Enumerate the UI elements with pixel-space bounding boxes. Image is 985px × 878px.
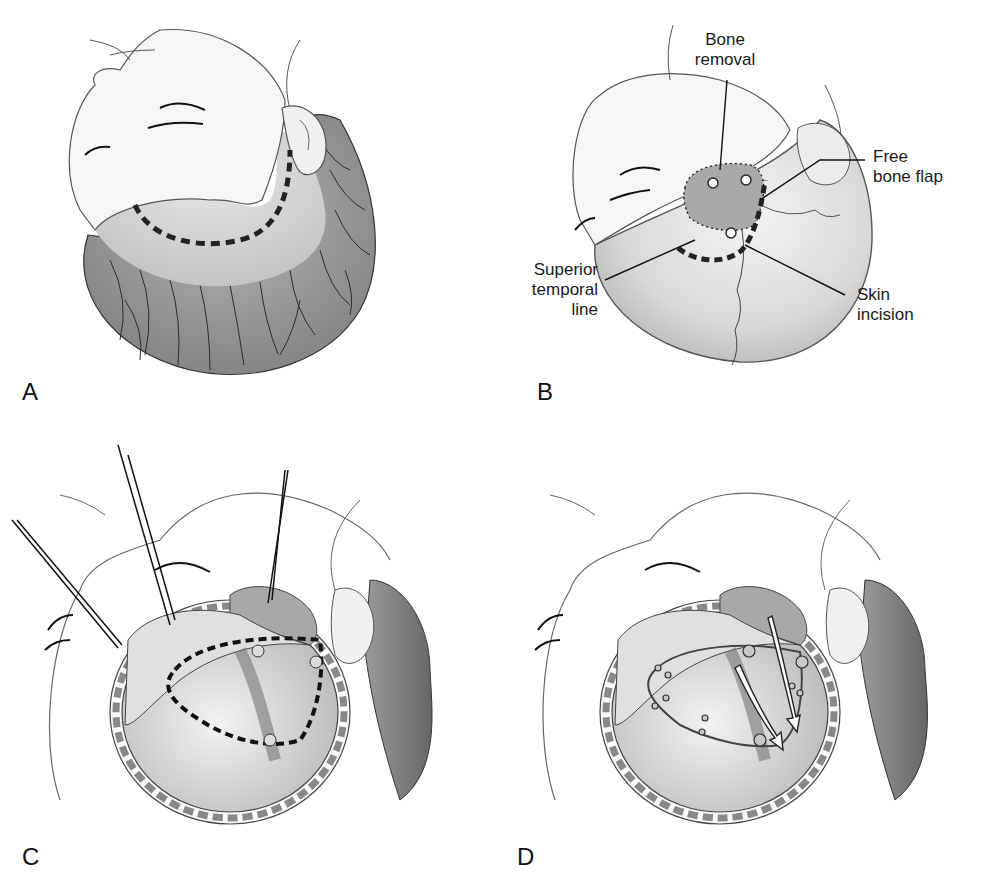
bone-removal-region — [684, 164, 764, 231]
panel-letter-d: D — [517, 845, 534, 869]
eyelash — [48, 615, 73, 630]
head-incision-illustration — [0, 0, 480, 420]
retractor-hook — [12, 520, 118, 648]
panel-letter-b: B — [537, 380, 553, 404]
panel-b: Bone removal Free bone flap Superior tem… — [480, 0, 985, 420]
panel-letter-c: C — [22, 845, 39, 869]
suture-knot — [699, 729, 705, 735]
figure-caption-truncated: · · · — [0, 868, 985, 878]
face-outline — [69, 30, 285, 230]
callout-bone-removal: Bone removal — [680, 30, 770, 70]
burr-hole — [743, 645, 755, 657]
burr-hole — [754, 734, 766, 746]
callout-free-bone-flap: Free bone flap — [873, 147, 983, 187]
callout-skin-incision: Skin incision — [857, 285, 957, 325]
burr-hole — [796, 656, 808, 668]
hair — [365, 580, 432, 800]
retractor-hook — [118, 445, 170, 625]
burr-hole — [264, 734, 276, 746]
eyelash — [535, 640, 560, 650]
panel-c: C — [0, 440, 480, 860]
eyelash — [645, 563, 700, 572]
burr-hole — [741, 175, 751, 185]
burr-hole — [252, 645, 264, 657]
hair — [860, 580, 927, 800]
callout-superior-temporal-line: Superior temporal line — [500, 260, 598, 320]
eyelash — [538, 615, 563, 630]
scalp-retracted-dura-illustration — [0, 440, 480, 860]
burr-hole — [310, 656, 322, 668]
eyelash — [155, 563, 210, 572]
dura-tacked-rotation-illustration — [480, 440, 985, 860]
burr-hole — [708, 178, 718, 188]
panel-letter-a: A — [22, 380, 38, 404]
panel-d: D — [480, 440, 985, 860]
panel-a: A — [0, 0, 480, 420]
burr-hole — [726, 228, 736, 238]
suture-knot — [655, 665, 661, 671]
ear — [331, 588, 374, 663]
ear — [826, 588, 869, 663]
suture-knot — [652, 703, 658, 709]
